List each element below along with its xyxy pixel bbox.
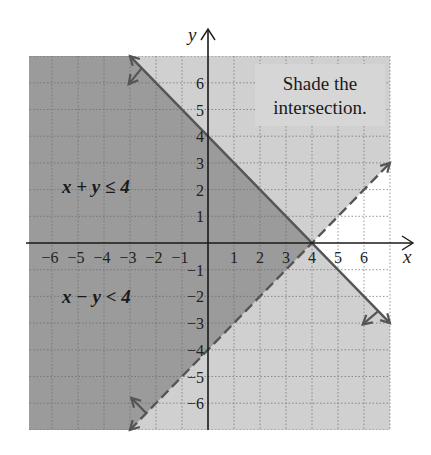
x-tick-label: −5 (67, 249, 84, 266)
instruction-box: Shade the intersection. (255, 64, 385, 126)
y-tick-label: −1 (187, 262, 204, 279)
inequality-graph: −6−5−4−3−2−1123456654321−1−2−3−4−5−6 y x… (0, 0, 431, 455)
y-tick-label: 2 (196, 182, 204, 199)
x-tick-label: −4 (93, 249, 110, 266)
y-tick-label: −2 (187, 288, 204, 305)
x-tick-label: −2 (145, 249, 162, 266)
x-tick-label: 3 (282, 249, 290, 266)
y-tick-label: −6 (187, 395, 204, 412)
y-axis-label: y (186, 24, 197, 45)
x-tick-label: −6 (41, 249, 58, 266)
y-tick-label: 4 (196, 128, 204, 145)
x-tick-label: 1 (230, 249, 238, 266)
inequality-label-1: x + y ≤ 4 (61, 176, 130, 197)
y-tick-label: 5 (196, 102, 204, 119)
y-tick-label: −4 (187, 342, 204, 359)
y-tick-label: 1 (196, 208, 204, 225)
inequality-label-2: x − y < 4 (61, 286, 131, 307)
x-tick-label: −1 (171, 249, 188, 266)
x-tick-label: −3 (119, 249, 136, 266)
y-tick-label: 6 (196, 75, 204, 92)
instruction-line-2: intersection. (273, 97, 366, 118)
instruction-line-1: Shade the (283, 73, 357, 94)
y-tick-label: 3 (196, 155, 204, 172)
x-tick-label: 5 (334, 249, 342, 266)
x-tick-label: 2 (256, 249, 264, 266)
x-axis-label: x (402, 246, 412, 267)
y-tick-label: −5 (187, 369, 204, 386)
x-tick-label: 4 (308, 249, 316, 266)
y-tick-label: −3 (187, 315, 204, 332)
x-tick-label: 6 (360, 249, 368, 266)
